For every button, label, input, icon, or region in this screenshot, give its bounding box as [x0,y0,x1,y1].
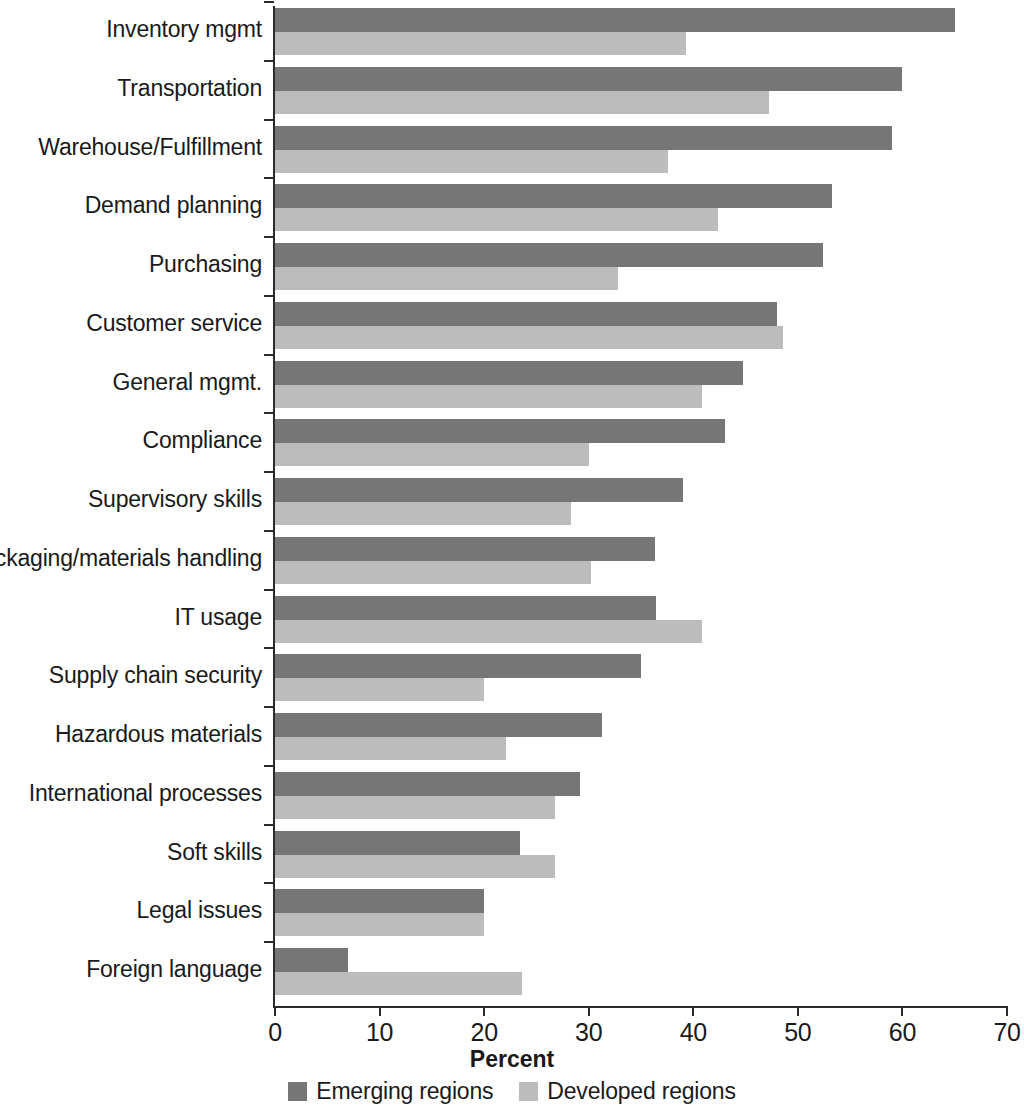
bar-row: Inventory mgmt [0,8,1024,56]
legend-swatch-emerging-icon [288,1082,307,1101]
bar-row: Transportation [0,67,1024,115]
bar-developed [275,913,484,936]
x-axis-tick [901,1006,903,1016]
y-axis-tick [264,882,274,884]
x-axis-tick [588,1006,590,1016]
bar-emerging [275,478,683,502]
y-axis-tick [264,765,274,767]
y-axis-tick [264,60,274,62]
bar-row: Customer service [0,302,1024,350]
bar-developed [275,385,702,408]
bar-developed [275,678,484,701]
category-label: IT usage [0,604,262,630]
chart-legend: Emerging regions Developed regions [0,1078,1024,1105]
x-axis-tick [483,1006,485,1016]
category-label: Customer service [0,310,262,336]
bar-developed [275,150,668,173]
bar-row: Legal issues [0,889,1024,937]
bar-chart-figure: 010203040506070 Inventory mgmtTransporta… [0,0,1024,1105]
bar-row: Foreign language [0,948,1024,996]
bar-row: Soft skills [0,831,1024,879]
bar-row: IT usage [0,596,1024,644]
x-axis-tick-label: 10 [350,1018,410,1047]
bar-row: Packaging/materials handling [0,537,1024,585]
bar-emerging [275,361,743,385]
bar-developed [275,326,783,349]
bar-row: Compliance [0,419,1024,467]
category-label: Inventory mgmt [0,16,262,42]
x-axis-tick-label: 50 [768,1018,828,1047]
bar-row: International processes [0,772,1024,820]
category-label: Foreign language [0,956,262,982]
category-label: International processes [0,780,262,806]
y-axis-tick [264,647,274,649]
bar-row: General mgmt. [0,361,1024,409]
y-axis-tick [264,236,274,238]
bar-emerging [275,831,520,855]
y-axis-tick [264,471,274,473]
y-axis-tick [264,1,274,3]
y-axis-tick [264,530,274,532]
bar-emerging [275,243,823,267]
bar-developed [275,972,522,995]
bar-emerging [275,596,656,620]
y-axis-tick [264,295,274,297]
category-label: Legal issues [0,897,262,923]
x-axis-tick-label: 0 [245,1018,305,1047]
category-label: Supply chain security [0,662,262,688]
x-axis-tick-label: 20 [454,1018,514,1047]
x-axis-tick-label: 30 [559,1018,619,1047]
x-axis-tick-label: 70 [977,1018,1024,1047]
legend-swatch-developed-icon [519,1082,538,1101]
bar-row: Warehouse/Fulfillment [0,126,1024,174]
bar-emerging [275,67,902,91]
y-axis-tick [264,119,274,121]
category-label: Warehouse/Fulfillment [0,134,262,160]
x-axis-tick [274,1006,276,1016]
y-axis-tick [264,706,274,708]
plot-area: 010203040506070 Inventory mgmtTransporta… [0,0,1024,1010]
bar-developed [275,267,618,290]
bar-emerging [275,419,725,443]
x-axis-title: Percent [0,1046,1024,1073]
x-axis-tick [1006,1006,1008,1016]
bar-developed [275,443,589,466]
bar-developed [275,91,769,114]
y-axis-tick [264,589,274,591]
category-label: Compliance [0,427,262,453]
bar-emerging [275,126,892,150]
x-axis-tick [797,1006,799,1016]
bar-row: Supervisory skills [0,478,1024,526]
category-label: General mgmt. [0,369,262,395]
category-label: Hazardous materials [0,721,262,747]
legend-label-developed: Developed regions [547,1078,735,1105]
category-label: Demand planning [0,192,262,218]
bar-emerging [275,889,484,913]
x-axis-tick-label: 60 [872,1018,932,1047]
bar-emerging [275,8,955,32]
bar-developed [275,502,571,525]
category-label: Transportation [0,75,262,101]
category-label: Purchasing [0,251,262,277]
category-label: Soft skills [0,839,262,865]
bar-emerging [275,713,602,737]
y-axis-tick [264,412,274,414]
bar-emerging [275,302,777,326]
legend-label-emerging: Emerging regions [316,1078,493,1105]
x-axis-line [273,1006,1007,1008]
bar-developed [275,855,555,878]
category-label: Packaging/materials handling [0,545,262,571]
bar-row: Demand planning [0,184,1024,232]
y-axis-tick [264,824,274,826]
x-axis-tick [692,1006,694,1016]
bar-emerging [275,948,348,972]
category-label: Supervisory skills [0,486,262,512]
y-axis-tick [264,941,274,943]
bar-row: Hazardous materials [0,713,1024,761]
bar-row: Supply chain security [0,654,1024,702]
bar-developed [275,737,506,760]
x-axis-tick-label: 40 [663,1018,723,1047]
bar-developed [275,208,718,231]
y-axis-tick [264,177,274,179]
bar-row: Purchasing [0,243,1024,291]
